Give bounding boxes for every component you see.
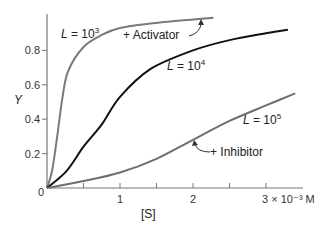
- x-tick-label: 3 × 10⁻³ M: [262, 193, 315, 205]
- x-axis-label: [S]: [141, 207, 156, 221]
- inhibitor-annotation: + Inhibitor: [210, 145, 263, 159]
- label-l-1e4: L = 104: [167, 58, 206, 73]
- curve-l-1e4: [47, 30, 288, 188]
- y-axis-label: Y: [14, 93, 23, 107]
- y-tick-label: 0.6: [25, 79, 40, 91]
- inhibitor-arrow: [195, 144, 210, 152]
- x-tick-label: 2: [190, 193, 196, 205]
- y-tick-label: 0.4: [25, 113, 40, 125]
- curve-l-1e5: [47, 93, 295, 188]
- y-tick-label: 0.8: [25, 44, 40, 56]
- x-ticks: 123 × 10⁻³ M: [84, 183, 315, 205]
- y-tick-label: 0: [38, 186, 44, 198]
- activator-arrow: [189, 24, 201, 36]
- chart: 00.20.40.60.8 123 × 10⁻³ M Y [S] L = 103…: [0, 0, 317, 233]
- y-ticks: 00.20.40.60.8: [25, 44, 47, 198]
- label-l-1e3: L = 103: [61, 26, 100, 41]
- x-tick-label: 1: [117, 193, 123, 205]
- label-l-1e5: L = 105: [243, 112, 282, 127]
- y-tick-label: 0.2: [25, 148, 40, 160]
- activator-annotation: + Activator: [123, 28, 179, 42]
